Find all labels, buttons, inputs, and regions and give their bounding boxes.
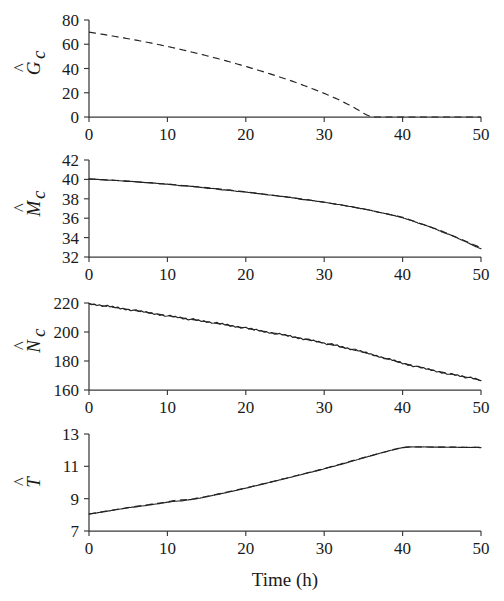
x-tick-label: 40 xyxy=(394,125,411,144)
axis-spine xyxy=(89,20,481,117)
y-tick-label: 38 xyxy=(62,190,79,209)
x-tick-label: 40 xyxy=(394,539,411,558)
x-tick-label: 20 xyxy=(237,539,254,558)
hat-accent: ^ xyxy=(10,477,31,487)
x-tick-label: 50 xyxy=(473,398,490,417)
axis-spine xyxy=(89,303,481,390)
y-tick-label: 13 xyxy=(62,425,79,444)
axis-spine xyxy=(89,160,481,257)
x-tick-label: 20 xyxy=(237,125,254,144)
x-tick-label: 30 xyxy=(316,398,333,417)
x-tick-label: 0 xyxy=(85,125,94,144)
x-tick-label: 40 xyxy=(394,265,411,284)
x-tick-label: 10 xyxy=(159,398,176,417)
y-tick-label: 80 xyxy=(62,11,79,30)
y-tick-label: 220 xyxy=(54,294,80,313)
series-measured xyxy=(89,303,481,380)
x-tick-label: 30 xyxy=(316,265,333,284)
y-tick-label: 32 xyxy=(62,248,79,267)
y-tick-label: 180 xyxy=(54,352,80,371)
axis-spine xyxy=(89,434,481,531)
y-tick-label: 7 xyxy=(71,522,80,541)
x-tick-label: 10 xyxy=(159,125,176,144)
y-tick-label: 60 xyxy=(62,35,79,54)
svg-text:T: T xyxy=(23,476,44,488)
hat-accent: ^ xyxy=(10,203,31,213)
x-axis-title: Time (h) xyxy=(252,569,318,591)
y-axis-label: T^ xyxy=(10,476,45,488)
y-axis-label-subscript: c xyxy=(28,328,49,337)
x-tick-label: 50 xyxy=(473,539,490,558)
series-model xyxy=(89,304,481,380)
svg-text:M: M xyxy=(23,199,44,217)
x-tick-label: 40 xyxy=(394,398,411,417)
series-model xyxy=(89,447,481,514)
x-tick-label: 50 xyxy=(473,125,490,144)
y-tick-label: 34 xyxy=(62,229,80,248)
hat-accent: ^ xyxy=(10,63,31,73)
y-tick-label: 36 xyxy=(62,209,79,228)
y-tick-label: 40 xyxy=(62,60,79,79)
series-model xyxy=(89,32,481,117)
y-axis-label: N^c xyxy=(10,328,50,354)
x-tick-label: 50 xyxy=(473,265,490,284)
multi-panel-figure: 02040608001020304050G^c32343638404201020… xyxy=(0,0,504,601)
x-tick-label: 20 xyxy=(237,398,254,417)
y-axis-label: G^c xyxy=(10,50,50,75)
x-tick-label: 10 xyxy=(159,265,176,284)
y-tick-label: 42 xyxy=(62,151,79,170)
series-model xyxy=(89,179,481,248)
y-tick-label: 200 xyxy=(54,323,80,342)
y-tick-label: 11 xyxy=(63,457,79,476)
x-tick-label: 30 xyxy=(316,125,333,144)
y-tick-label: 0 xyxy=(71,108,80,127)
x-tick-label: 10 xyxy=(159,539,176,558)
y-tick-label: 9 xyxy=(71,490,80,509)
x-tick-label: 0 xyxy=(85,398,94,417)
hat-accent: ^ xyxy=(10,341,31,351)
y-tick-label: 20 xyxy=(62,84,79,103)
x-tick-label: 20 xyxy=(237,265,254,284)
y-tick-label: 160 xyxy=(54,381,80,400)
y-axis-label-subscript: c xyxy=(28,50,49,59)
x-tick-label: 0 xyxy=(85,265,94,284)
y-tick-label: 40 xyxy=(62,170,79,189)
svg-text:N: N xyxy=(23,339,44,354)
svg-text:G: G xyxy=(23,61,44,75)
series-measured xyxy=(89,447,481,514)
y-axis-label-subscript: c xyxy=(28,190,49,199)
series-measured xyxy=(89,179,481,249)
y-axis-label: M^c xyxy=(10,190,50,217)
x-tick-label: 0 xyxy=(85,539,94,558)
x-tick-label: 30 xyxy=(316,539,333,558)
